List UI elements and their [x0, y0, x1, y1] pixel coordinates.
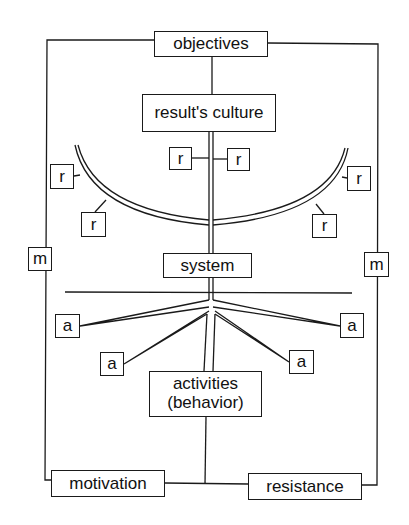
objectives-label: objectives — [173, 35, 249, 53]
m-label: m — [369, 256, 383, 274]
r-label: r — [59, 168, 65, 186]
motivation-label: motivation — [69, 475, 146, 493]
a-label: a — [107, 355, 116, 373]
behavior-label: (behavior) — [167, 394, 244, 413]
divider-line — [65, 292, 352, 293]
motivation-node: motivation — [51, 470, 165, 497]
resistance-label: resistance — [266, 478, 343, 496]
activities-node: activities (behavior) — [149, 371, 262, 417]
r-box-left-top: r — [50, 164, 74, 189]
m-box-left: m — [28, 247, 52, 271]
culture-system-diagram: objectives result's culture system activ… — [0, 0, 409, 525]
activities-label: activities — [173, 375, 238, 394]
system-node: system — [163, 253, 252, 278]
r-box-right-bottom: r — [312, 214, 337, 238]
r-label: r — [322, 217, 328, 235]
a-box-right-upper: a — [340, 313, 364, 338]
frame-left-line — [45, 40, 154, 480]
r-label: r — [236, 151, 242, 169]
frame-right-line — [268, 43, 378, 485]
objectives-node: objectives — [154, 31, 268, 57]
a-box-right-lower: a — [289, 350, 314, 374]
m-box-right: m — [364, 252, 389, 277]
a-box-left-upper: a — [55, 314, 80, 338]
results-culture-label: result's culture — [154, 104, 263, 122]
a-label: a — [63, 317, 72, 335]
r-label: r — [178, 150, 184, 168]
r-box-center-right: r — [227, 148, 250, 171]
r-label: r — [356, 170, 362, 188]
m-label: m — [33, 250, 47, 268]
system-label: system — [181, 257, 235, 275]
resistance-node: resistance — [248, 473, 362, 500]
r-box-center-left: r — [169, 147, 192, 170]
a-label: a — [297, 353, 306, 371]
r-box-right-top: r — [347, 166, 371, 191]
a-label: a — [347, 317, 356, 335]
r-box-left-bottom: r — [81, 212, 106, 237]
results-culture-node: result's culture — [142, 94, 276, 132]
r-label: r — [91, 216, 97, 234]
a-box-left-lower: a — [100, 352, 124, 376]
